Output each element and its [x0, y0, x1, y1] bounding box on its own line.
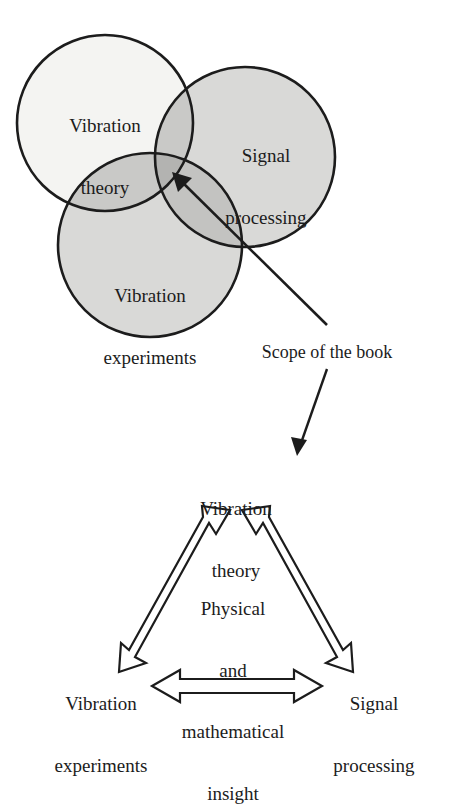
venn-label-vibration-experiments-line1: Vibration — [62, 286, 238, 307]
venn-label-vibration-theory-line1: Vibration — [25, 116, 185, 137]
venn-label-vibration-experiments: Vibration experiments — [62, 245, 238, 389]
triangle-center-text: Physical and mathematical insight — [143, 558, 323, 808]
venn-label-signal-processing-line1: Signal — [190, 146, 342, 167]
triangle-node-vibration-theory-line1: Vibration — [158, 499, 314, 520]
venn-label-signal-processing-line2: processing — [190, 208, 342, 229]
triangle-center-text-line4: insight — [143, 784, 323, 805]
triangle-center-text-line2: and — [143, 661, 323, 682]
venn-label-vibration-theory: Vibration theory — [25, 75, 185, 219]
venn-label-vibration-experiments-line2: experiments — [62, 348, 238, 369]
triangle-center-text-line1: Physical — [143, 599, 323, 620]
venn-label-vibration-theory-line2: theory — [25, 178, 185, 199]
scope-of-the-book-label: Scope of the book — [222, 343, 432, 362]
venn-label-signal-processing: Signal processing — [190, 105, 342, 249]
triangle-center-text-line3: mathematical — [143, 722, 323, 743]
